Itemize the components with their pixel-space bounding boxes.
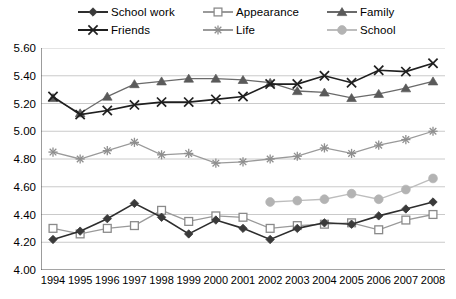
plot-area [41, 48, 445, 270]
legend-item-label: Life [233, 24, 255, 36]
open-square-marker-icon [203, 5, 233, 19]
data-point-marker [401, 185, 410, 194]
data-point-marker [401, 135, 410, 144]
series-life [48, 127, 437, 168]
data-point-marker [320, 195, 329, 204]
x-axis-tick-label: 1996 [95, 274, 119, 286]
y-axis-tick-label: 4.20 [14, 236, 36, 248]
data-point-marker [429, 174, 438, 183]
legend-item-life[interactable]: Life [203, 22, 255, 38]
y-axis-tick-label: 5.40 [14, 70, 36, 82]
data-point-marker [185, 230, 193, 238]
data-point-marker [374, 141, 383, 150]
data-point-marker [320, 143, 329, 152]
y-axis-tick-label: 4.40 [14, 209, 36, 221]
x-axis-tick-label: 2007 [394, 274, 418, 286]
chart-figure: School workAppearanceFamilyFriendsLifeSc… [0, 0, 456, 299]
series-friends [48, 59, 437, 120]
data-point-marker [429, 211, 437, 219]
data-point-marker [211, 159, 220, 168]
legend-item-appearance[interactable]: Appearance [203, 4, 299, 20]
legend-marker-glyph [327, 23, 357, 37]
legend-marker-glyph [327, 5, 357, 19]
legend-item-friends[interactable]: Friends [78, 22, 150, 38]
x-axis-tick-label: 1999 [176, 274, 200, 286]
data-point-marker [428, 127, 437, 136]
data-point-marker [76, 154, 85, 163]
data-point-marker [184, 149, 193, 158]
data-point-marker [239, 224, 247, 232]
series-school [266, 174, 438, 206]
diamond-marker-icon [78, 5, 108, 19]
cross-x-marker-icon [78, 23, 108, 37]
data-point-marker [238, 157, 247, 166]
x-axis-tick-label: 2004 [312, 274, 336, 286]
y-axis-tick-label: 4.00 [14, 264, 36, 276]
data-point-marker [266, 198, 275, 207]
data-point-marker [130, 138, 139, 147]
legend-marker-glyph [203, 23, 233, 37]
data-point-marker [103, 146, 112, 155]
legend-item-label: Friends [108, 24, 150, 36]
data-point-marker [347, 189, 356, 198]
data-point-marker [103, 224, 111, 232]
data-point-marker [157, 150, 166, 159]
data-point-marker [266, 224, 274, 232]
data-point-marker [428, 77, 438, 85]
y-axis-tick-label: 5.20 [14, 98, 36, 110]
y-axis-tick-label: 5.00 [14, 125, 36, 137]
asterisk-marker-icon [203, 23, 233, 37]
data-point-marker [375, 212, 383, 220]
triangle-marker-icon [327, 5, 357, 19]
legend-item-label: Appearance [233, 6, 299, 18]
data-point-marker [428, 59, 437, 68]
x-axis-tick-label: 2006 [366, 274, 390, 286]
x-axis-tick-label: 2008 [421, 274, 445, 286]
data-point-marker [429, 198, 437, 206]
data-point-marker [374, 195, 383, 204]
data-point-marker [48, 147, 57, 156]
data-point-marker [131, 222, 139, 230]
data-point-marker [102, 92, 112, 100]
legend-marker-glyph [203, 5, 233, 19]
x-axis-tick-label: 1998 [149, 274, 173, 286]
x-axis-tick-labels: 1994199519961997199819992000200120022003… [41, 274, 445, 294]
data-point-marker [103, 214, 111, 222]
legend-item-label: Family [357, 6, 394, 18]
data-point-marker [130, 199, 138, 207]
y-axis-tick-label: 4.80 [14, 153, 36, 165]
data-point-marker [239, 213, 247, 221]
data-point-marker [266, 154, 275, 163]
legend-marker-glyph [78, 23, 108, 37]
legend-marker-glyph [78, 5, 108, 19]
data-point-marker [347, 149, 356, 158]
data-point-marker [293, 196, 302, 205]
x-axis-tick-label: 1994 [41, 274, 65, 286]
chart-svg [41, 48, 445, 270]
x-axis-tick-label: 2005 [339, 274, 363, 286]
legend-item-label: School work [108, 6, 175, 18]
y-axis-tick-label: 5.60 [14, 42, 36, 54]
data-point-marker [293, 152, 302, 161]
data-point-marker [185, 218, 193, 226]
chart-legend: School workAppearanceFamilyFriendsLifeSc… [0, 4, 456, 42]
legend-item-label: School [357, 24, 396, 36]
legend-item-family[interactable]: Family [327, 4, 394, 20]
data-point-marker [402, 205, 410, 213]
x-axis-tick-label: 1997 [122, 274, 146, 286]
data-point-marker [375, 226, 383, 234]
data-point-marker [402, 216, 410, 224]
x-axis-tick-label: 2003 [285, 274, 309, 286]
x-axis-tick-label: 2000 [204, 274, 228, 286]
x-axis-tick-label: 2001 [231, 274, 255, 286]
y-axis-tick-labels: 4.004.204.404.604.805.005.205.405.60 [0, 48, 36, 270]
legend-item-school[interactable]: School [327, 22, 396, 38]
circle-marker-icon [327, 23, 357, 37]
legend-item-school-work[interactable]: School work [78, 4, 175, 20]
y-axis-tick-label: 4.60 [14, 181, 36, 193]
x-axis-tick-label: 1995 [68, 274, 92, 286]
data-point-marker [49, 224, 57, 232]
x-axis-tick-label: 2002 [258, 274, 282, 286]
